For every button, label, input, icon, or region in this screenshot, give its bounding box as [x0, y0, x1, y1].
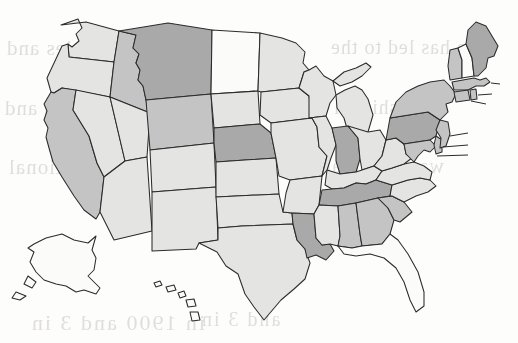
leader-line-ma: [491, 83, 500, 84]
state-SD[interactable]: South Dakota: [211, 91, 260, 128]
choropleth-map-figure: as in cities and as in cities and the na…: [0, 0, 518, 343]
state-MA[interactable]: Massachusetts: [452, 78, 490, 90]
state-NE[interactable]: Nebraska: [214, 124, 276, 162]
state-CO[interactable]: Colorado: [150, 143, 216, 192]
state-MS[interactable]: Mississippi: [314, 205, 340, 246]
state-WA[interactable]: Washington: [61, 19, 119, 62]
leader-line-ct: [471, 101, 486, 104]
state-HI[interactable]: Hawaii: [154, 281, 200, 321]
state-CT[interactable]: Connecticut: [454, 90, 470, 102]
state-IA[interactable]: Iowa: [260, 88, 312, 123]
state-OK[interactable]: Oklahoma: [216, 194, 293, 228]
leader-line-md: [437, 155, 468, 156]
states-layer: Washington Oregon California Nevada Idah…: [12, 19, 498, 321]
state-ND[interactable]: North Dakota: [211, 30, 260, 94]
state-RI[interactable]: Rhode Island: [470, 89, 477, 100]
state-WY[interactable]: Wyoming: [146, 94, 214, 150]
state-KS[interactable]: Kansas: [216, 158, 279, 197]
us-states-map: Washington Oregon California Nevada Idah…: [0, 0, 518, 343]
state-AK[interactable]: Alaska: [12, 234, 100, 300]
state-AR[interactable]: Arkansas: [283, 176, 322, 214]
leader-line-nj: [450, 133, 468, 136]
leader-line-ri: [478, 94, 492, 95]
